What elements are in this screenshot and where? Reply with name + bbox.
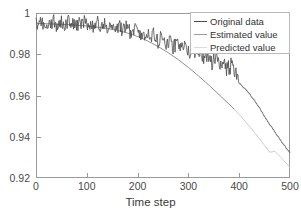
y-tick-label: 1 xyxy=(24,7,30,19)
y-tick-label: 0.92 xyxy=(10,172,30,184)
legend-label: Original data xyxy=(210,15,264,28)
x-tick-label: 200 xyxy=(129,180,147,192)
x-tick-label: 100 xyxy=(78,180,96,192)
y-axis-tick-labels: 1 0.98 0.96 0.94 0.92 xyxy=(0,0,33,218)
x-tick-label: 0 xyxy=(33,180,39,192)
x-tick-label: 300 xyxy=(180,180,198,192)
x-axis-title: Time step xyxy=(0,196,301,208)
y-tick-label: 0.94 xyxy=(10,131,30,143)
legend-label: Predicted value xyxy=(210,41,275,54)
legend-item-estimated-value: Estimated value xyxy=(191,28,289,41)
legend-swatch-estimated-value xyxy=(194,34,207,35)
legend-box: Original data Estimated value Predicted … xyxy=(190,12,290,54)
figure-chart: 1 0.98 0.96 0.94 0.92 0 100 200 300 400 … xyxy=(0,0,301,218)
legend-item-predicted-value: Predicted value xyxy=(191,41,289,54)
line-predicted-value xyxy=(234,109,290,168)
y-tick-label: 0.96 xyxy=(10,90,30,102)
legend-label: Estimated value xyxy=(210,28,278,41)
x-tick-label: 500 xyxy=(281,180,299,192)
x-tick-label: 400 xyxy=(230,180,248,192)
y-tick-label: 0.98 xyxy=(10,48,30,60)
legend-swatch-predicted-value xyxy=(194,47,207,48)
legend-swatch-original-data xyxy=(194,21,207,22)
legend-item-original-data: Original data xyxy=(191,15,289,28)
